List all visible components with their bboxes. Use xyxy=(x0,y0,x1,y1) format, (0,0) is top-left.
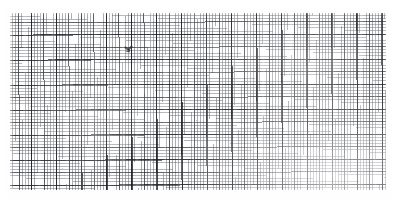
grid-lines-heavy xyxy=(10,13,386,190)
screenshot-canvas xyxy=(0,0,399,206)
grid-skew-wrapper xyxy=(10,13,386,190)
graph-paper-grid xyxy=(10,13,386,190)
